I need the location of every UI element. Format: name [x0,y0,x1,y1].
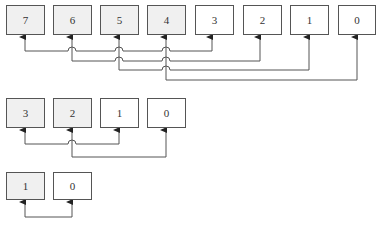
node-r1-6: 6 [53,5,92,35]
node-r1-0: 0 [338,5,376,35]
node-r1-2: 2 [243,5,282,35]
connector-4-0 [166,37,357,80]
node-r1-1: 1 [290,5,329,35]
node-r3-0: 0 [53,172,92,200]
node-r1-4: 4 [147,5,186,35]
node-r1-5: 5 [100,5,139,35]
node-r1-7: 7 [6,5,45,35]
node-r2-2: 2 [53,98,92,128]
node-r2-1: 1 [100,98,139,128]
node-r2-0: 0 [147,98,186,128]
node-r1-3: 3 [195,5,234,35]
connector-1-0 [25,202,72,217]
node-r2-3: 3 [6,98,45,128]
node-r3-1: 1 [6,172,45,200]
connector-5-1 [119,37,309,70]
